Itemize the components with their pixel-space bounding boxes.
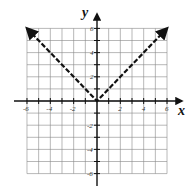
- x-tick-label: 2: [118, 105, 122, 113]
- x-tick-label: -4: [46, 105, 52, 113]
- x-tick-label: 6: [165, 105, 169, 113]
- y-tick-label: 2: [90, 73, 94, 81]
- x-tick-label: -2: [70, 105, 76, 113]
- x-tick-label: 4: [142, 105, 146, 113]
- y-axis-label: y: [80, 5, 89, 20]
- y-tick-label: 6: [90, 25, 94, 33]
- y-tick-label: -6: [87, 170, 93, 178]
- x-tick-label: -6: [23, 105, 29, 113]
- y-tick-label: -4: [87, 146, 93, 154]
- y-tick-label: -2: [87, 122, 93, 130]
- x-axis-label: x: [177, 103, 185, 118]
- y-tick-label: 4: [90, 49, 94, 57]
- coordinate-plane: -6-4-2246-6-4-2246 x y: [0, 0, 191, 189]
